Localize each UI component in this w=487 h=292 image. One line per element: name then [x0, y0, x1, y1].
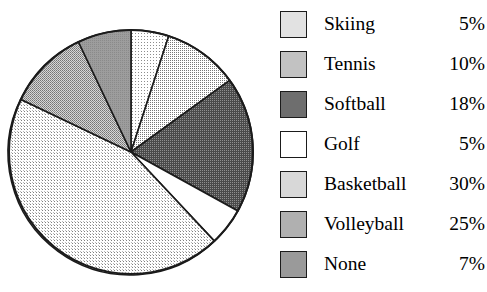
- legend-label-tennis: Tennis: [324, 54, 376, 74]
- legend-item-skiing: Skiing 5%: [272, 4, 487, 44]
- legend-value-skiing: 5%: [459, 14, 485, 34]
- legend-swatch-volleyball: [280, 211, 307, 238]
- legend-value-volleyball: 25%: [449, 214, 485, 234]
- legend-item-tennis: Tennis 10%: [272, 44, 487, 84]
- legend-item-softball: Softball 18%: [272, 84, 487, 124]
- legend-label-softball: Softball: [324, 94, 386, 114]
- legend-item-none: None 7%: [272, 244, 487, 284]
- legend-swatch-basketball: [280, 171, 307, 198]
- pie-chart-figure: Skiing 5% Tennis 10% Softball 18% Golf 5…: [0, 0, 487, 292]
- legend-swatch-softball: [280, 91, 307, 118]
- legend-label-basketball: Basketball: [324, 174, 406, 194]
- legend-label-golf: Golf: [324, 134, 360, 154]
- legend-swatch-skiing: [280, 11, 307, 38]
- pie-chart-plot-area: [0, 0, 272, 292]
- pie-chart-svg: [0, 0, 272, 292]
- legend-swatch-none: [280, 251, 307, 278]
- legend-value-basketball: 30%: [449, 174, 485, 194]
- legend-item-volleyball: Volleyball 25%: [272, 204, 487, 244]
- legend-label-volleyball: Volleyball: [324, 214, 404, 234]
- legend-item-basketball: Basketball 30%: [272, 164, 487, 204]
- chart-legend: Skiing 5% Tennis 10% Softball 18% Golf 5…: [272, 0, 487, 292]
- legend-label-none: None: [324, 254, 366, 274]
- legend-label-skiing: Skiing: [324, 14, 375, 34]
- legend-item-golf: Golf 5%: [272, 124, 487, 164]
- legend-value-tennis: 10%: [449, 54, 485, 74]
- legend-value-none: 7%: [459, 254, 485, 274]
- legend-value-softball: 18%: [449, 94, 485, 114]
- legend-value-golf: 5%: [459, 134, 485, 154]
- legend-swatch-golf: [280, 131, 307, 158]
- legend-swatch-tennis: [280, 51, 307, 78]
